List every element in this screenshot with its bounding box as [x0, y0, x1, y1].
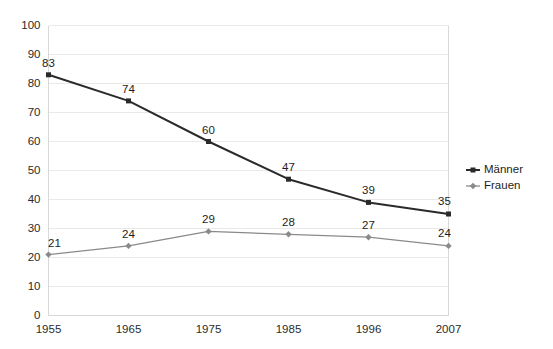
- data-point-label: 29: [202, 213, 215, 225]
- data-point-marker: [126, 98, 131, 103]
- data-point-label: 27: [362, 219, 375, 231]
- data-point-label: 47: [282, 161, 295, 173]
- data-point-label: 28: [282, 216, 295, 228]
- data-point-marker: [206, 139, 211, 144]
- data-point-marker: [46, 72, 51, 77]
- data-point-marker: [366, 200, 371, 205]
- legend-item-label: Frauen: [484, 179, 520, 191]
- y-axis-tick-label: 70: [28, 106, 41, 118]
- line-chart: 0102030405060708090100 19551965197519851…: [0, 0, 553, 349]
- x-axis-tick-label: 1985: [276, 323, 302, 335]
- y-axis-tick-label: 50: [28, 164, 41, 176]
- x-axis-tick-label: 2007: [436, 323, 462, 335]
- y-axis-tick-label: 20: [28, 251, 41, 263]
- data-point-label: 21: [48, 237, 61, 249]
- y-axis-tick-label: 80: [28, 77, 41, 89]
- y-axis-tick-label: 0: [34, 309, 40, 321]
- y-axis-tick-label: 10: [28, 280, 41, 292]
- data-point-label: 83: [42, 57, 55, 69]
- x-axis-tick-label: 1975: [196, 323, 222, 335]
- legend-item-label: Männer: [484, 163, 523, 175]
- data-point-label: 74: [122, 83, 135, 95]
- x-axis-tick-label: 1996: [356, 323, 382, 335]
- data-point-label: 60: [202, 124, 215, 136]
- data-point-label: 24: [438, 227, 451, 239]
- data-point-marker: [286, 177, 291, 182]
- y-axis-tick-label: 60: [28, 135, 41, 147]
- y-axis-tick-label: 30: [28, 222, 41, 234]
- y-axis-tick-label: 100: [21, 19, 40, 31]
- data-point-label: 39: [362, 184, 375, 196]
- data-point-label: 24: [122, 228, 135, 240]
- y-axis-tick-label: 90: [28, 48, 41, 60]
- y-axis-tick-label: 40: [28, 193, 41, 205]
- data-point-marker: [446, 212, 451, 217]
- x-axis-tick-label: 1965: [116, 323, 142, 335]
- legend-marker-square: [471, 168, 476, 173]
- chart-canvas: 0102030405060708090100 19551965197519851…: [0, 0, 553, 349]
- x-axis-tick-label: 1955: [36, 323, 62, 335]
- data-point-label: 35: [438, 195, 451, 207]
